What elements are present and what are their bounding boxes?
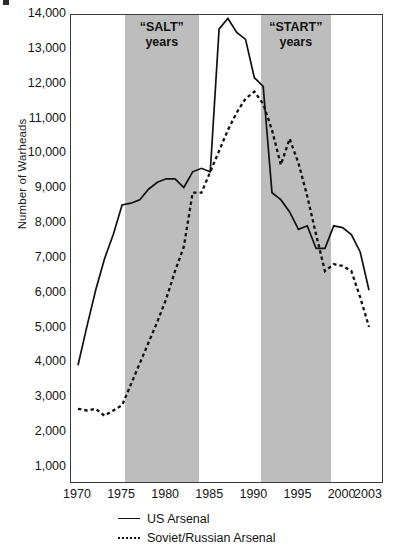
y-tick-label: 12,000	[8, 76, 66, 90]
x-tick-label: 2003	[354, 487, 382, 501]
legend-item-label: US Arsenal	[147, 512, 210, 526]
y-tick-label: 4,000	[8, 354, 66, 368]
y-tick-label: 2,000	[8, 424, 66, 438]
y-tick-label: 3,000	[8, 389, 66, 403]
x-tick-label: 1985	[195, 487, 223, 501]
series-line-us-arsenal	[78, 18, 369, 365]
y-tick-label: 13,000	[8, 41, 66, 55]
legend-item: Soviet/Russian Arsenal	[118, 528, 378, 547]
legend-item: US Arsenal	[118, 509, 378, 528]
x-tick-label: 1980	[151, 487, 179, 501]
series-lines	[71, 15, 383, 483]
legend-item-label: Soviet/Russian Arsenal	[147, 531, 276, 545]
chart-legend: US ArsenalSoviet/Russian Arsenal	[118, 509, 378, 547]
solid-line-icon	[118, 514, 140, 524]
x-tick-label: 2000	[328, 487, 356, 501]
y-tick-label: 7,000	[8, 250, 66, 264]
y-tick-label: 5,000	[8, 320, 66, 334]
series-line-soviet-russian-arsenal	[78, 92, 369, 416]
x-tick-label: 1975	[107, 487, 135, 501]
chart-figure: Number of Warheads 1,0002,0003,0004,0005…	[0, 0, 399, 549]
y-tick-label: 14,000	[8, 6, 66, 20]
x-tick-label: 1995	[284, 487, 312, 501]
y-tick-label: 9,000	[8, 180, 66, 194]
dashed-line-icon	[118, 533, 140, 543]
x-tick-label: 1970	[63, 487, 91, 501]
y-axis-tick-labels: 1,0002,0003,0004,0005,0006,0007,0008,000…	[6, 0, 66, 549]
y-tick-label: 1,000	[8, 459, 66, 473]
y-tick-label: 8,000	[8, 215, 66, 229]
y-tick-label: 11,000	[8, 111, 66, 125]
x-tick-label: 1990	[239, 487, 267, 501]
plot-area: “SALT”years“START”years	[70, 14, 383, 483]
y-tick-label: 6,000	[8, 285, 66, 299]
y-tick-label: 10,000	[8, 145, 66, 159]
